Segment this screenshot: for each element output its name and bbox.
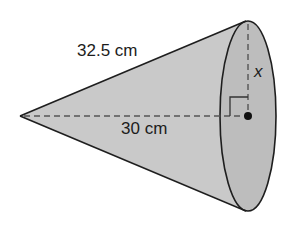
height-label: 30 cm (121, 120, 167, 137)
radius-label: x (254, 63, 263, 80)
cone-figure (0, 0, 303, 230)
center-dot (244, 112, 252, 120)
cone-diagram: 32.5 cm 30 cm x (0, 0, 303, 230)
slant-height-label: 32.5 cm (77, 42, 137, 59)
